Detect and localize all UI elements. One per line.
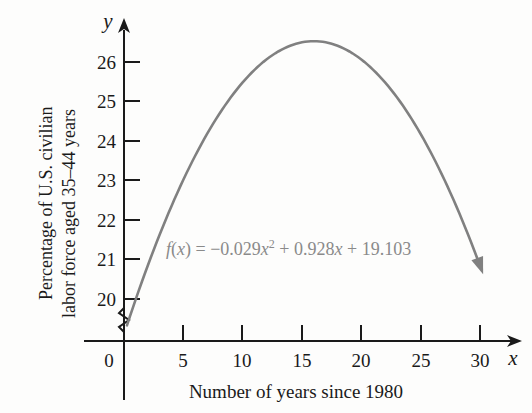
function-curve: [127, 41, 483, 325]
x-axis-ticks: 0 5 10 15 20 25 30: [104, 325, 489, 371]
quadratic-function-chart: Percentage of U.S. civilian labor force …: [0, 0, 532, 413]
x-tick-label: 5: [178, 350, 188, 371]
equation-linear-coefficient: + 0.928: [275, 239, 335, 259]
y-tick-label: 25: [97, 91, 116, 112]
x-axis-variable-label: x: [507, 346, 518, 370]
equation-constant: + 19.103: [342, 239, 411, 259]
parabola-path: [127, 41, 480, 325]
equation-variable-squared: x: [260, 239, 269, 259]
y-tick-label: 23: [97, 170, 116, 191]
x-tick-label: 30: [471, 350, 490, 371]
y-tick-label: 24: [97, 131, 117, 152]
y-axis-label-line1: Percentage of U.S. civilian: [36, 107, 56, 300]
curve-arrowhead-icon: [471, 256, 483, 274]
x-tick-label: 10: [233, 350, 252, 371]
chart-svg: Percentage of U.S. civilian labor force …: [0, 0, 532, 413]
x-tick-label: 20: [352, 350, 371, 371]
y-axis-ticks: 20 21 22 23 24 25 26: [97, 52, 140, 310]
y-axis-variable-label: y: [101, 9, 113, 33]
x-tick-label: 15: [293, 350, 312, 371]
equation-equals-coefficient: = −0.029: [191, 239, 261, 259]
y-tick-label: 21: [97, 249, 116, 270]
x-tick-label: 0: [104, 350, 114, 371]
x-axis-title: Number of years since 1980: [189, 381, 403, 402]
y-tick-label: 20: [97, 289, 116, 310]
x-tick-label: 25: [412, 350, 431, 371]
equation-annotation: f(x) = −0.029x2 + 0.928x + 19.103: [166, 237, 411, 260]
equation-variable-linear: x: [333, 239, 342, 259]
equation-argument: x: [176, 239, 185, 259]
y-axis-label: Percentage of U.S. civilian labor force …: [36, 107, 79, 318]
y-tick-label: 22: [97, 210, 116, 231]
y-axis-label-line2: labor force aged 35–44 years: [59, 109, 79, 318]
y-tick-label: 26: [97, 52, 116, 73]
